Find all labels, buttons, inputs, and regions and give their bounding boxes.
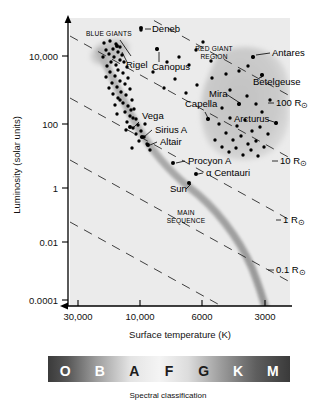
star-point [105,64,108,67]
star-point [110,81,113,84]
star-point [113,103,116,106]
star-point [220,106,223,109]
star-point [143,122,146,125]
star-point [129,108,132,111]
star-point [245,94,248,97]
star-point [101,55,104,58]
star-point [113,74,116,77]
x-axis-title: Surface temperature (K) [129,329,231,340]
y-axis-ticks [62,56,68,300]
y-tick-labels: 10,000 100 1 0.01 0.0001 [29,51,58,306]
star-point [184,91,187,94]
star-point [137,139,140,142]
blue-giants-label: BLUE GIANTS [86,30,132,37]
x-tick-label: 6000 [191,311,212,322]
star-point [119,90,122,93]
y-tick-label: 1 [53,183,58,194]
star-point [224,72,227,75]
star-point [224,131,227,134]
hr-diagram-figure: 10,000 100 1 0.01 0.0001 30,000 10,000 6… [0,0,327,407]
star-point [107,86,110,89]
star-point [201,40,204,43]
star-point [124,93,127,96]
star-point [220,145,223,148]
star-point [104,48,107,51]
y-tick-label: 10,000 [29,51,58,62]
named-star-dot [206,117,210,121]
named-star-dot [237,102,241,106]
red-giant-region-label-line1: RED GIANT [195,45,233,52]
star-point [254,102,257,105]
main-sequence-label-line1: MAIN [177,209,194,216]
star-point [114,63,117,66]
star-name-label: Antares [272,47,305,58]
star-point [116,68,119,71]
x-axis-arrow [60,303,68,310]
star-point [237,69,240,72]
star-point [258,125,261,128]
star-point [108,39,111,42]
star-point [241,153,244,156]
named-star-dot [115,44,119,48]
named-star-dot [155,47,159,51]
star-point [228,116,231,119]
star-point [250,129,253,132]
star-point [162,86,165,89]
star-point [121,101,124,104]
star-point [123,110,126,113]
y-axis-title: Luminosity (solar units) [11,116,22,214]
star-point [246,142,249,145]
star-name-label: Sun [170,183,187,194]
star-point [123,82,126,85]
star-point [262,145,265,148]
y-tick-label: 0.0001 [29,295,58,306]
star-point [254,139,257,142]
star-point [256,154,259,157]
spectral-class-G: G [198,363,209,379]
x-tick-label: 30,000 [63,311,92,322]
star-point [111,92,114,95]
star-name-label: Sirius A [155,124,188,135]
red-giant-region-label-line2: REGION [200,53,227,60]
star-point [118,98,121,101]
star-point [227,150,230,153]
star-point [130,98,133,101]
named-star-dot [194,172,198,176]
named-star-dot [139,26,143,30]
spectral-class-M: M [267,363,279,379]
star-point [125,120,128,123]
star-point [102,41,105,44]
star-point [118,79,121,82]
named-star-dot [171,161,175,165]
star-point [126,104,129,107]
star-name-label: Betelgeuse [253,76,301,87]
star-point [115,85,118,88]
spectral-class-K: K [233,363,243,379]
star-point [121,71,124,74]
star-point [246,64,249,67]
spectral-class-F: F [165,363,174,379]
star-point [108,70,111,73]
star-point [132,107,135,110]
star-point [118,58,121,61]
star-point [128,87,131,90]
spectral-class-A: A [129,363,139,379]
y-tick-label: 0.01 [40,237,59,248]
star-point [124,128,127,131]
star-point [249,148,252,151]
star-point [210,76,213,79]
main-sequence-label-line2: SEQUENCE [167,217,206,225]
spectral-class-B: B [95,363,105,379]
star-name-label: Arcturus [234,113,270,124]
star-point [139,129,142,132]
y-tick-label: 100 [42,119,58,130]
star-point [213,138,216,141]
star-point [195,83,198,86]
star-point [217,122,220,125]
star-point [131,116,134,119]
star-point [104,75,107,78]
spectral-class-O: O [60,363,71,379]
star-name-label: Canopus [152,61,190,72]
named-star-dot [128,125,132,129]
star-name-label: Rigel [126,59,148,70]
